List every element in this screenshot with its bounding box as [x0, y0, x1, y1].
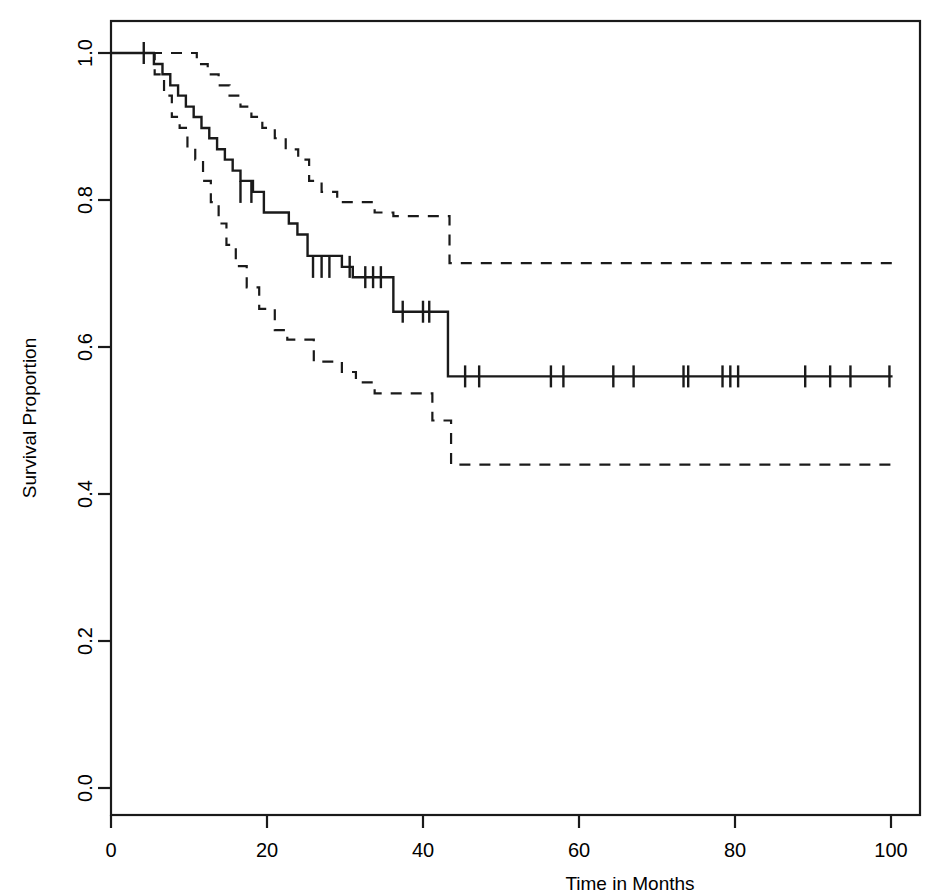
y-tick-label: 0.6 — [74, 333, 96, 361]
y-tick-label: 1.0 — [74, 39, 96, 67]
y-tick-label: 0.0 — [74, 774, 96, 802]
y-tick-label: 0.8 — [74, 186, 96, 214]
x-tick-label: 20 — [256, 839, 278, 861]
y-tick-label: 0.4 — [74, 480, 96, 508]
kaplan-meier-chart: 020406080100 0.00.20.40.60.81.0 Time in … — [0, 0, 941, 896]
y-tick-label: 0.2 — [74, 627, 96, 655]
x-tick-label: 100 — [874, 839, 907, 861]
x-tick-label: 80 — [724, 839, 746, 861]
x-axis-title: Time in Months — [565, 873, 694, 894]
y-axis-title: Survival Proportion — [19, 338, 40, 499]
x-tick-label: 0 — [105, 839, 116, 861]
x-tick-label: 60 — [568, 839, 590, 861]
survival-plot-page: 020406080100 0.00.20.40.60.81.0 Time in … — [0, 0, 941, 896]
chart-background — [0, 0, 941, 896]
x-tick-label: 40 — [412, 839, 434, 861]
